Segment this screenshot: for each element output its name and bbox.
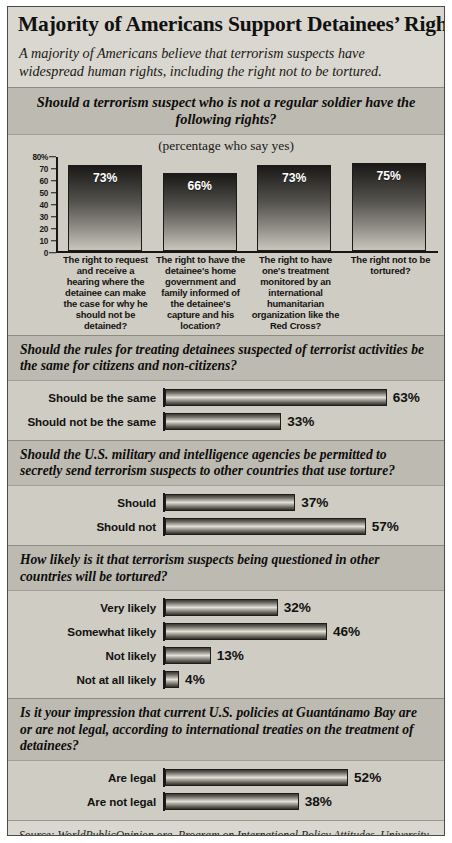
horizontal-bar bbox=[165, 413, 281, 430]
section-header-1: Should a terrorism suspect who is not a … bbox=[8, 87, 444, 135]
bar-section-3: Should 37% Should not 57% bbox=[8, 486, 444, 545]
bar-label: Not at all likely bbox=[8, 673, 163, 686]
bar-label: Should not be the same bbox=[8, 415, 163, 428]
y-tick-20: 20 bbox=[39, 224, 48, 233]
section-5-question: Is it your impression that current U.S. … bbox=[20, 705, 432, 755]
bar-label: Are legal bbox=[8, 771, 163, 784]
section-3-question: Should the U.S. military and intelligenc… bbox=[20, 447, 432, 480]
category-label: The right to request and receive a heari… bbox=[58, 254, 153, 331]
bar-track: 32% bbox=[163, 598, 444, 617]
bar-track: 38% bbox=[163, 792, 444, 811]
bar-track: 4% bbox=[163, 670, 444, 689]
column-chart-section: (percentage who say yes) 80% 70 60 50 40… bbox=[8, 135, 444, 335]
column-bar-value: 66% bbox=[164, 179, 236, 193]
bar-value: 57% bbox=[372, 519, 399, 534]
bar-section-2: Should be the same 63% Should not be the… bbox=[8, 381, 444, 440]
bar-row: Very likely 32% bbox=[8, 598, 444, 617]
bar-row: Should not be the same 33% bbox=[8, 412, 444, 431]
page-subtitle: A majority of Americans believe that ter… bbox=[8, 40, 444, 87]
bar-row: Somewhat likely 46% bbox=[8, 622, 444, 641]
infographic-poster: Majority of Americans Support Detainees’… bbox=[0, 0, 452, 843]
horizontal-bar bbox=[165, 769, 348, 786]
bar-track: 52% bbox=[163, 768, 444, 787]
section-2-question: Should the rules for treating detainees … bbox=[20, 342, 432, 375]
bar-value: 37% bbox=[301, 495, 328, 510]
horizontal-bar bbox=[165, 389, 387, 406]
bar-label: Should not bbox=[8, 520, 163, 533]
x-axis-line bbox=[56, 251, 438, 253]
bar-value: 63% bbox=[393, 390, 420, 405]
section-4-question: How likely is it that terrorism suspects… bbox=[20, 552, 432, 585]
page-title: Majority of Americans Support Detainees’… bbox=[18, 13, 434, 36]
column-bar-value: 73% bbox=[69, 171, 141, 185]
bar-value: 32% bbox=[284, 600, 311, 615]
bar-label: Should bbox=[8, 496, 163, 509]
column-bar: 75% bbox=[352, 163, 426, 251]
horizontal-bar bbox=[165, 623, 327, 640]
bar-label: Not likely bbox=[8, 649, 163, 662]
section-1-question: Should a terrorism suspect who is not a … bbox=[20, 94, 432, 129]
section-header-4: How likely is it that terrorism suspects… bbox=[8, 545, 444, 591]
column-bar: 73% bbox=[68, 165, 142, 251]
category-label: The right not to be tortured? bbox=[343, 254, 438, 331]
bar-section-4: Very likely 32% Somewhat likely 46% Not … bbox=[8, 591, 444, 698]
category-label: The right to have one's treatment monito… bbox=[248, 254, 343, 331]
bar-track: 13% bbox=[163, 646, 444, 665]
bar-value: 38% bbox=[305, 794, 332, 809]
y-tick-80: 80% bbox=[33, 152, 49, 161]
column-bar: 66% bbox=[163, 173, 237, 251]
source-text: Source: WorldPublicOpinion.org, Program … bbox=[19, 828, 433, 836]
horizontal-bar bbox=[165, 518, 366, 535]
bar-label: Somewhat likely bbox=[8, 625, 163, 638]
section-header-2: Should the rules for treating detainees … bbox=[8, 335, 444, 381]
bar-row: Not likely 13% bbox=[8, 646, 444, 665]
bar-row: Are not legal 38% bbox=[8, 792, 444, 811]
bar-label: Should be the same bbox=[8, 391, 163, 404]
y-tick-0: 0 bbox=[44, 248, 48, 257]
y-tick-30: 30 bbox=[39, 212, 48, 221]
bar-row: Should 37% bbox=[8, 493, 444, 512]
y-tick-50: 50 bbox=[39, 188, 48, 197]
y-tick-10: 10 bbox=[39, 236, 48, 245]
horizontal-bar bbox=[165, 793, 299, 810]
source-note: Source: WorldPublicOpinion.org, Program … bbox=[8, 820, 444, 836]
bar-label: Very likely bbox=[8, 601, 163, 614]
bar-value: 4% bbox=[185, 672, 205, 687]
bar-row: Should not 57% bbox=[8, 517, 444, 536]
column-bar-value: 75% bbox=[353, 169, 425, 183]
y-tick-60: 60 bbox=[39, 176, 48, 185]
bar-row: Should be the same 63% bbox=[8, 388, 444, 407]
bar-row: Are legal 52% bbox=[8, 768, 444, 787]
bar-track: 37% bbox=[163, 493, 444, 512]
section-header-3: Should the U.S. military and intelligenc… bbox=[8, 440, 444, 486]
bar-track: 63% bbox=[163, 388, 444, 407]
bar-track: 57% bbox=[163, 517, 444, 536]
bar-label: Are not legal bbox=[8, 795, 163, 808]
horizontal-bar bbox=[165, 671, 179, 688]
column-bar: 73% bbox=[257, 165, 331, 251]
column-chart-plot: 80% 70 60 50 40 30 20 10 0 bbox=[16, 157, 438, 253]
bar-value: 13% bbox=[217, 648, 244, 663]
bar-value: 52% bbox=[354, 770, 381, 785]
tick-mark-80 bbox=[49, 156, 56, 158]
category-label: The right to have the detainee's home go… bbox=[153, 254, 248, 331]
bar-value: 46% bbox=[333, 624, 360, 639]
y-axis: 80% 70 60 50 40 30 20 10 0 bbox=[16, 157, 56, 253]
horizontal-bar bbox=[165, 647, 211, 664]
bar-row: Not at all likely 4% bbox=[8, 670, 444, 689]
section-header-5: Is it your impression that current U.S. … bbox=[8, 698, 444, 761]
column-bars: 73% 66% 73% 75% bbox=[58, 157, 436, 251]
horizontal-bar bbox=[165, 599, 278, 616]
y-tick-40: 40 bbox=[39, 200, 48, 209]
bar-section-5: Are legal 52% Are not legal 38% bbox=[8, 761, 444, 820]
y-tick-70: 70 bbox=[39, 164, 48, 173]
horizontal-bar bbox=[165, 494, 295, 511]
title-band: Majority of Americans Support Detainees’… bbox=[8, 7, 444, 40]
column-category-labels: The right to request and receive a heari… bbox=[58, 254, 438, 335]
section-1-note: (percentage who say yes) bbox=[8, 137, 444, 157]
column-bar-value: 73% bbox=[258, 171, 330, 185]
bar-value: 33% bbox=[287, 414, 314, 429]
poster-frame: Majority of Americans Support Detainees’… bbox=[7, 6, 445, 836]
bar-track: 46% bbox=[163, 622, 444, 641]
tick-mark-0 bbox=[49, 252, 56, 254]
